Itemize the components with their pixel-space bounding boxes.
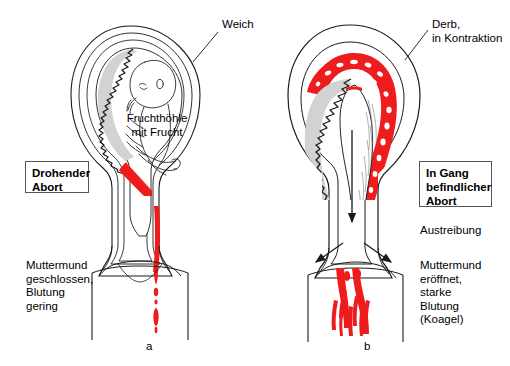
- caption-a: a: [146, 340, 152, 352]
- findings-panel-b: Muttermund eröffnet, starke Blutung (Koa…: [420, 259, 481, 327]
- leader-line-derb: [405, 30, 428, 60]
- figure-canvas: Weich Fruchthöhle mit Frucht Drohender A…: [0, 0, 510, 366]
- label-weich: Weich: [222, 18, 254, 32]
- box-in-gang-befindlicher-abort: In Gang befindlicher Abort: [419, 161, 492, 207]
- box-drohender-abort: Drohender Abort: [25, 161, 89, 193]
- panel-b-uterus: [288, 25, 420, 342]
- label-fruchthoehle-mit-frucht: Fruchthöhle mit Frucht: [114, 112, 200, 139]
- label-austreibung: Austreibung: [420, 224, 481, 238]
- caption-b: b: [364, 340, 370, 352]
- label-derb-in-kontraktion: Derb, in Kontraktion: [432, 18, 502, 45]
- findings-panel-a: Muttermund geschlossen, Blutung gering: [26, 259, 93, 313]
